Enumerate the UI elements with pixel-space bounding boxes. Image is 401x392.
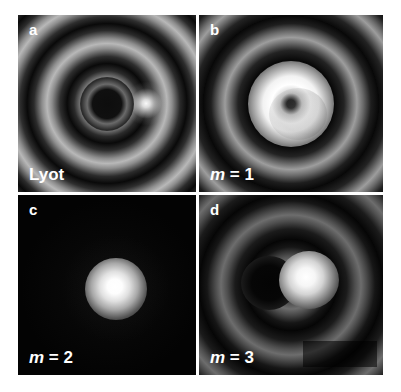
panel-a: a Lyot: [18, 15, 196, 192]
panel-b-caption-variable: m: [210, 165, 225, 184]
panel-b-letter: b: [210, 22, 219, 37]
panel-d-caption-variable: m: [210, 348, 225, 367]
coronagraph-figure: a Lyot b m = 1 c m = 2 d m = 3: [0, 0, 401, 392]
panel-a-caption: Lyot: [29, 166, 64, 183]
panel-c-caption-value: 2: [64, 348, 73, 367]
panel-grid: a Lyot b m = 1 c m = 2 d m = 3: [18, 15, 383, 375]
panel-b: b m = 1: [199, 15, 383, 192]
panel-d-letter: d: [210, 202, 219, 217]
panel-b-caption-value: 1: [245, 165, 254, 184]
panel-d-dark-block: [303, 341, 377, 367]
panel-c-caption-variable: m: [29, 348, 44, 367]
panel-d-caption-value: 3: [245, 348, 254, 367]
panel-b-caption: m = 1: [210, 166, 254, 183]
panel-d: d m = 3: [199, 195, 383, 375]
panel-c: c m = 2: [18, 195, 196, 375]
panel-d-caption: m = 3: [210, 349, 254, 366]
panel-c-caption: m = 2: [29, 349, 73, 366]
panel-c-letter: c: [29, 202, 38, 217]
panel-a-letter: a: [29, 22, 38, 37]
